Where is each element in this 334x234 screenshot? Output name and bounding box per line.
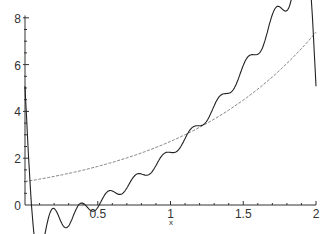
y-tick-label: 8 (14, 12, 21, 26)
axes (23, 15, 316, 205)
y-tick-label: 4 (14, 105, 21, 119)
x-axis-label: x (169, 218, 173, 227)
x-tick-label: 1.5 (235, 207, 252, 221)
y-tick-label: 0 (14, 199, 21, 213)
tick-labels: 0.511.5202468 (14, 12, 319, 221)
x-tick-label: 2 (313, 207, 320, 221)
y-tick-label: 2 (14, 152, 21, 166)
y-tick-label: 6 (14, 59, 21, 73)
x-tick-label: 0.5 (89, 207, 106, 221)
chart: 0.511.5202468 x (0, 0, 334, 234)
trend-line (25, 32, 316, 182)
approximation-curve (25, 0, 316, 234)
